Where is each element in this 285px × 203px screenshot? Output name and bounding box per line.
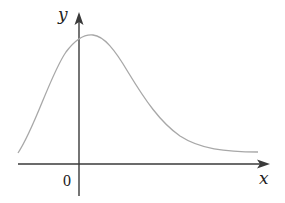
function-curve	[18, 35, 258, 153]
graph-canvas	[0, 0, 285, 203]
y-axis-label: y	[58, 6, 68, 23]
function-graph: y x 0	[0, 0, 285, 203]
origin-label: 0	[63, 173, 71, 189]
x-axis-label: x	[259, 170, 269, 187]
